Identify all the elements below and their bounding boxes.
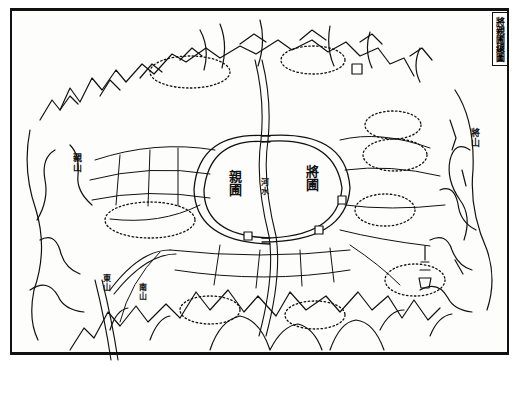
- label-bottom-left-mountain-a: 東山: [102, 274, 110, 292]
- label-channel: 河水: [260, 178, 268, 196]
- gardens: [194, 135, 350, 244]
- label-bottom-left-mountain-b: 南山: [138, 283, 146, 301]
- label-right-garden: 將圃: [305, 165, 318, 191]
- label-left-garden: 親圃: [228, 170, 241, 196]
- mountains-top: [40, 20, 432, 120]
- pavilion-icons: [244, 64, 362, 240]
- map-title: 將親圃總圖: [492, 12, 508, 66]
- field-plots-left: [90, 147, 215, 221]
- label-left-mountain: 親山: [72, 153, 81, 173]
- pagoda-icon: [419, 246, 431, 288]
- label-right-mountain: 將山: [470, 128, 479, 148]
- map-drawing: [0, 0, 519, 399]
- groves: [105, 46, 445, 329]
- field-plots-right: [340, 136, 445, 246]
- mountains-left: [27, 130, 92, 340]
